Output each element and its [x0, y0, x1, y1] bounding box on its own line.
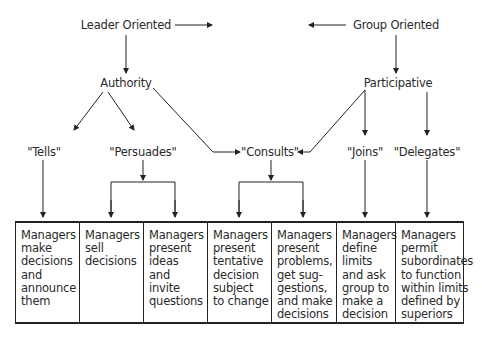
persuades-label: "Persuades": [109, 145, 176, 159]
box-text: Managers present problems, get sug- gest…: [272, 223, 336, 321]
behavior-box-tentative-decision: Managers present tentative decision subj…: [207, 221, 271, 324]
behavior-box-tells: Managers make decisions and announce the…: [15, 221, 79, 324]
behavior-box-permit-subordinates: Managers permit subordinates to function…: [395, 221, 464, 324]
participative-label: Participative: [364, 76, 433, 90]
behavior-box-sells: Managers sell decisions: [79, 221, 143, 324]
box-text: Managers make decisions and announce the…: [16, 223, 79, 308]
box-text: Managers sell decisions: [80, 223, 143, 269]
box-text: Managers define limits and ask group to …: [337, 223, 395, 321]
box-text: Managers present tentative decision subj…: [208, 223, 271, 308]
delegates-label: "Delegates": [394, 145, 461, 159]
consults-label: "Consults": [241, 145, 299, 159]
authority-label: Authority: [100, 76, 151, 90]
behavior-box-presents-ideas: Managers present ideas and invite questi…: [143, 221, 207, 324]
joins-label: "Joins": [347, 145, 383, 159]
behavior-box-presents-problems: Managers present problems, get sug- gest…: [271, 221, 336, 324]
leader-oriented-label: Leader Oriented: [81, 18, 171, 32]
tells-label: "Tells": [27, 145, 61, 159]
group-oriented-label: Group Oriented: [353, 18, 439, 32]
box-text: Managers present ideas and invite questi…: [144, 223, 207, 308]
box-text: Managers permit subordinates to function…: [396, 223, 463, 321]
behavior-box-define-limits: Managers define limits and ask group to …: [336, 221, 395, 324]
